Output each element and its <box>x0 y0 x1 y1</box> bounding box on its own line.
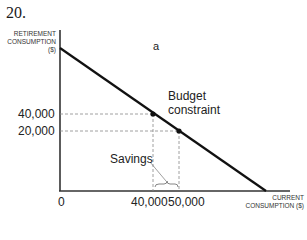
xtick-40000: 40,000 <box>131 195 168 209</box>
panel-label: a <box>153 40 159 52</box>
x-axis-label: CURRENT CONSUMPTION ($) <box>240 194 304 210</box>
savings-label: Savings <box>110 152 153 166</box>
budget-constraint-line <box>60 48 266 191</box>
point-40k-40k <box>150 111 155 116</box>
savings-brace <box>155 181 178 187</box>
ytick-40000: 40,000 <box>18 107 55 121</box>
point-50k-20k <box>176 128 181 133</box>
budget-constraint-label: Budget constraint <box>168 89 220 117</box>
xtick-0: 0 <box>58 195 65 209</box>
xtick-50000: 50,000 <box>168 195 205 209</box>
y-axis-label: RETIREMENT CONSUMPTION ($) <box>2 30 56 54</box>
ytick-20000: 20,000 <box>18 124 55 138</box>
